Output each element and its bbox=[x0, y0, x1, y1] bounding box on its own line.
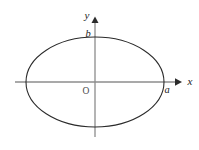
y-axis-label: y bbox=[84, 9, 90, 21]
ellipse-figure: y x b a O bbox=[0, 0, 199, 150]
ellipse-diagram-canvas: y x b a O bbox=[0, 0, 199, 150]
x-axis-arrowhead bbox=[175, 78, 182, 85]
semi-major-axis-label-a: a bbox=[164, 84, 169, 95]
origin-label: O bbox=[83, 86, 90, 96]
semi-minor-axis-label-b: b bbox=[85, 28, 90, 39]
y-axis-arrowhead bbox=[92, 17, 99, 24]
x-axis-label: x bbox=[187, 75, 193, 87]
